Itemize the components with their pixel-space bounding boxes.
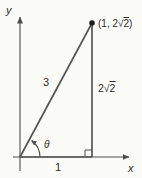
base-leg-label: 1 — [55, 161, 61, 173]
point-label-suffix: ) — [129, 18, 132, 29]
point-dot — [89, 20, 95, 26]
vertical-leg-label-prefix: 2√ — [98, 82, 110, 94]
hypotenuse-line — [20, 23, 92, 157]
figure-canvas: y x θ (1, 2√2) 3 2√2 1 — [0, 0, 142, 178]
x-axis-label: x — [127, 162, 134, 174]
y-axis-label: y — [5, 4, 13, 16]
angle-arc — [32, 141, 40, 157]
vertical-leg-label: 2√2 — [98, 82, 116, 94]
vertical-leg-label-radicand: 2 — [110, 82, 116, 94]
right-angle-marker — [85, 150, 92, 156]
triangle-figure: y x θ (1, 2√2) 3 2√2 1 — [0, 0, 142, 178]
hypotenuse-label: 3 — [43, 76, 49, 88]
point-coordinate-label: (1, 2√2) — [98, 18, 132, 29]
point-label-prefix: (1, 2√ — [98, 18, 124, 29]
angle-theta-label: θ — [44, 139, 50, 150]
